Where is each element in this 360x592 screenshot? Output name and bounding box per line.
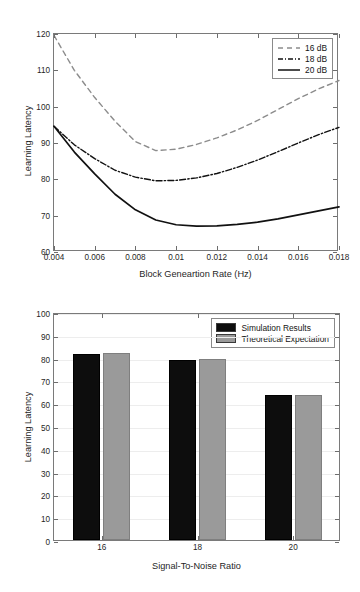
x-tick-label-0.01: 0.01	[168, 253, 184, 262]
legend-label-simulation: Simulation Results	[241, 323, 310, 333]
y-tick-mark	[54, 382, 58, 383]
y-tick-label-100: 100	[36, 310, 50, 319]
y-tick-label-100: 100	[36, 102, 50, 111]
x-tick-mark-top	[135, 34, 136, 38]
x-tick-label-0.018: 0.018	[329, 253, 350, 262]
y-tick-mark	[54, 474, 58, 475]
line-chart-plot-area: 16 dB 18 dB 20 dB 607080901001101200.004…	[53, 33, 338, 251]
grid-line	[54, 314, 339, 315]
x-tick-label-0.014: 0.014	[247, 253, 268, 262]
x-tick-mark	[135, 246, 136, 250]
y-tick-mark-right	[335, 519, 339, 520]
series-line-18-db	[54, 126, 339, 180]
y-tick-label-0: 0	[45, 538, 50, 547]
y-tick-label-20: 20	[41, 492, 50, 501]
y-tick-mark-right	[333, 107, 337, 108]
y-tick-mark-right	[333, 34, 337, 35]
y-tick-label-70: 70	[41, 378, 50, 387]
y-tick-mark-right	[335, 405, 339, 406]
x-tick-mark-top	[54, 34, 55, 38]
legend-label-16db: 16 dB	[305, 43, 327, 53]
y-tick-mark	[54, 179, 58, 180]
y-tick-label-80: 80	[41, 355, 50, 364]
legend-item-20db: 20 dB	[277, 64, 327, 75]
gray-swatch-icon	[216, 334, 236, 343]
y-tick-label-90: 90	[41, 139, 50, 148]
y-tick-mark-right	[333, 70, 337, 71]
y-tick-mark-right	[333, 179, 337, 180]
y-tick-mark-right	[335, 428, 339, 429]
y-tick-mark	[54, 314, 58, 315]
y-tick-label-90: 90	[41, 332, 50, 341]
y-tick-mark	[54, 70, 58, 71]
legend-label-20db: 20 dB	[305, 65, 327, 75]
bar-16-theoretical	[103, 353, 130, 540]
x-tick-label-20: 20	[289, 543, 298, 552]
y-tick-label-110: 110	[37, 66, 50, 75]
x-tick-mark	[54, 246, 55, 250]
y-tick-label-70: 70	[41, 211, 50, 220]
bar-20-simulation	[265, 395, 292, 540]
x-tick-mark-top	[102, 314, 103, 318]
y-tick-mark	[54, 428, 58, 429]
y-tick-mark	[54, 107, 58, 108]
bar-chart-figure: Simulation Results Theoretical Expectati…	[0, 296, 360, 592]
y-tick-mark	[54, 519, 58, 520]
x-tick-mark-top	[217, 34, 218, 38]
x-tick-mark-top	[339, 34, 340, 38]
y-tick-mark	[54, 542, 58, 543]
y-tick-mark-right	[333, 143, 337, 144]
y-tick-mark	[54, 216, 58, 217]
x-tick-label-18: 18	[193, 543, 202, 552]
y-tick-mark	[54, 451, 58, 452]
y-tick-mark-right	[335, 496, 339, 497]
y-tick-label-120: 120	[36, 30, 50, 39]
x-tick-mark	[298, 246, 299, 250]
y-tick-mark-right	[335, 542, 339, 543]
legend-label-theoretical: Theoretical Expectation	[241, 334, 329, 344]
x-tick-mark	[95, 246, 96, 250]
x-tick-mark-top	[298, 34, 299, 38]
line-chart-legend: 16 dB 18 dB 20 dB	[272, 38, 333, 79]
dash-dot-line-icon	[277, 54, 301, 64]
legend-item-16db: 16 dB	[277, 42, 327, 53]
x-tick-label-0.016: 0.016	[288, 253, 309, 262]
y-tick-label-80: 80	[41, 175, 50, 184]
solid-line-icon	[277, 65, 301, 75]
x-tick-mark-top	[198, 314, 199, 318]
y-tick-label-10: 10	[41, 515, 50, 524]
legend-label-18db: 18 dB	[305, 54, 327, 64]
x-tick-mark-top	[176, 34, 177, 38]
x-tick-mark-top	[293, 314, 294, 318]
bar-20-theoretical	[295, 395, 322, 540]
bar-chart-x-axis-label: Signal-To-Noise Ratio	[53, 561, 340, 571]
series-line-20-db	[54, 126, 339, 226]
x-tick-mark	[217, 246, 218, 250]
grid-line	[54, 337, 339, 338]
y-tick-mark	[54, 337, 58, 338]
line-chart-figure: 16 dB 18 dB 20 dB 607080901001101200.004…	[0, 0, 360, 296]
line-chart-y-axis-label: Learning Latency	[23, 91, 33, 191]
bar-18-theoretical	[199, 359, 226, 540]
bar-chart-y-axis-label: Learning Latency	[23, 377, 33, 477]
legend-item-theoretical: Theoretical Expectation	[216, 333, 329, 344]
y-tick-label-30: 30	[41, 469, 50, 478]
y-tick-mark-right	[335, 360, 339, 361]
y-tick-mark-right	[335, 451, 339, 452]
y-tick-mark	[54, 143, 58, 144]
x-tick-label-0.004: 0.004	[44, 253, 65, 262]
x-tick-mark-top	[258, 34, 259, 38]
x-tick-label-0.012: 0.012	[207, 253, 228, 262]
y-tick-mark-right	[335, 382, 339, 383]
x-tick-label-0.008: 0.008	[125, 253, 146, 262]
y-tick-mark	[54, 405, 58, 406]
x-tick-mark	[258, 246, 259, 250]
y-tick-mark-right	[335, 314, 339, 315]
y-tick-label-50: 50	[41, 424, 50, 433]
x-tick-mark-top	[95, 34, 96, 38]
x-tick-mark	[176, 246, 177, 250]
dashed-line-icon	[277, 43, 301, 53]
y-tick-mark-right	[333, 216, 337, 217]
y-tick-label-40: 40	[41, 446, 50, 455]
legend-item-simulation: Simulation Results	[216, 322, 329, 333]
